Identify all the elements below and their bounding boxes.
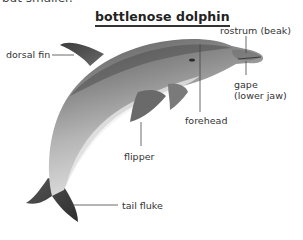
dorsal-fin-shape (60, 43, 104, 66)
dolphin-body-shape (49, 39, 263, 196)
label-gape-line1: gape (234, 79, 258, 90)
eye (189, 58, 195, 61)
label-dorsal-fin: dorsal fin (6, 49, 50, 60)
label-flipper: flipper (124, 151, 154, 162)
label-forehead: forehead (185, 115, 227, 126)
label-tail-fluke: tail fluke (122, 200, 163, 211)
label-rostrum: rostrum (beak) (220, 25, 291, 36)
far-flipper-shape (168, 83, 188, 110)
label-gape-line2: (lower jaw) (234, 90, 287, 101)
